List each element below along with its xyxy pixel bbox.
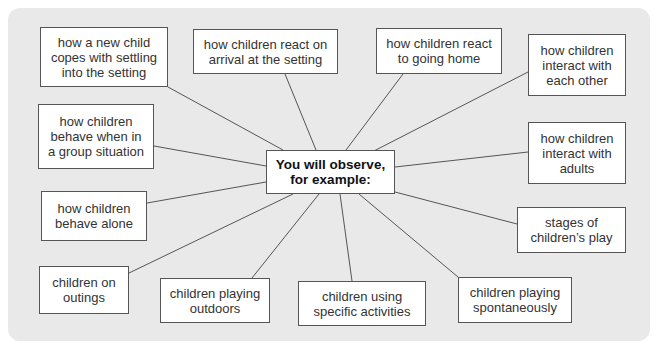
connector-react-arrival — [285, 74, 316, 150]
node-react-home: how children react to going home — [376, 28, 502, 74]
connector-spontaneously — [359, 194, 458, 277]
node-playing-outdoors: children playing outdoors — [160, 278, 270, 323]
node-stages-play: stages of children’s play — [517, 207, 626, 253]
center-node: You will observe, for example: — [266, 150, 395, 194]
node-outings: children on outings — [39, 266, 129, 314]
node-new-child: how a new child copes with settling into… — [40, 27, 168, 87]
connector-behave-alone — [147, 182, 266, 203]
connector-interact-adults — [395, 152, 528, 167]
node-behave-alone: how children behave alone — [41, 191, 147, 241]
connector-interact-each-other — [370, 72, 528, 153]
connector-specific-activities — [340, 194, 352, 281]
node-specific-activities: children using specific activities — [298, 281, 426, 326]
connector-playing-outdoors — [252, 194, 319, 278]
connector-new-child — [168, 87, 283, 150]
node-group-situation: how children behave when in a group situ… — [38, 104, 154, 169]
node-react-arrival: how children react on arrival at the set… — [193, 29, 338, 74]
node-spontaneously: children playing spontaneously — [458, 277, 572, 323]
connector-group-situation — [154, 146, 266, 166]
connector-stages-play — [395, 192, 517, 224]
connector-outings — [129, 194, 293, 273]
node-interact-adults: how children interact with adults — [528, 122, 626, 184]
node-interact-each-other: how children interact with each other — [528, 34, 626, 96]
connector-react-home — [346, 74, 403, 150]
